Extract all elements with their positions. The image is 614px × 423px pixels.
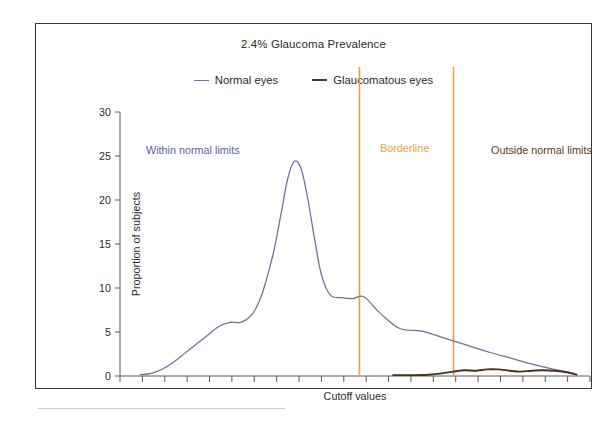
y-tick-label: 20: [99, 194, 111, 206]
y-tick-label: 10: [99, 282, 111, 294]
legend-line-icon-glaucomatous: [312, 79, 327, 81]
footer-divider: [38, 408, 285, 409]
y-tick-label: 0: [105, 370, 111, 382]
figure-container: 2.4% Glaucoma Prevalence Normal eyes Gla…: [0, 0, 614, 423]
legend-label-normal: Normal eyes: [215, 74, 278, 86]
legend-line-icon-normal: [194, 80, 209, 81]
chart-title: 2.4% Glaucoma Prevalence: [36, 38, 591, 50]
chart-panel: 2.4% Glaucoma Prevalence Normal eyes Gla…: [35, 23, 592, 389]
annotation-borderline: Borderline: [380, 142, 429, 154]
legend-item-glaucomatous-eyes: Glaucomatous eyes: [312, 74, 433, 86]
annotation-outside-normal-limits: Outside normal limits: [491, 144, 592, 156]
y-tick-label: 15: [99, 238, 111, 250]
y-tick-label: 30: [99, 106, 111, 118]
chart-legend: Normal eyes Glaucomatous eyes: [36, 74, 591, 86]
y-tick-label: 5: [105, 326, 111, 338]
legend-item-normal-eyes: Normal eyes: [194, 74, 278, 86]
series-line-normal-eyes: [140, 161, 574, 375]
x-tick-marks: [120, 376, 590, 382]
x-axis-label: Cutoff values: [120, 390, 590, 402]
legend-label-glaucomatous: Glaucomatous eyes: [333, 74, 433, 86]
annotation-within-normal-limits: Within normal limits: [146, 144, 240, 156]
y-tick-label: 25: [99, 150, 111, 162]
data-series: [140, 161, 576, 375]
series-line-glaucomatous-eyes: [393, 369, 577, 375]
